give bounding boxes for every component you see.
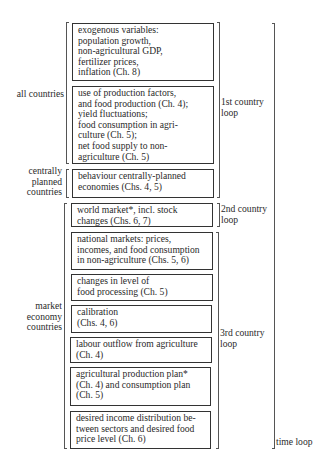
bracket-all-countries <box>66 22 69 164</box>
bracket-2nd-country-loop <box>217 203 220 227</box>
box-centrally-planned-behaviour: behaviour centrally-planned economies (C… <box>72 169 214 198</box>
bracket-time-loop <box>272 23 275 449</box>
group-label-centrally-planned: centrally planned countries <box>4 166 62 198</box>
box-production-factors: use of production factors, and food prod… <box>72 86 214 164</box>
group-label-market-economy: market economy countries <box>4 301 62 333</box>
box-labour-outflow: labour outflow from agriculture (Ch. 4) <box>70 337 212 363</box>
box-exogenous-variables: exogenous variables: population growth, … <box>72 23 214 81</box>
box-income-distribution: desired income distribution be- tween se… <box>70 411 211 449</box>
loop-label-3rd: 3rd country loop <box>220 328 265 349</box>
box-calibration: calibration (Chs. 4, 6) <box>71 305 212 333</box>
box-food-processing: changes in level of food processing (Ch.… <box>71 274 213 301</box>
loop-label-2nd: 2nd country loop <box>221 204 267 225</box>
box-world-market: world market*, incl. stock changes (Chs.… <box>71 203 213 227</box>
group-label-all-countries: all countries <box>14 89 64 100</box>
bracket-market-economy <box>64 203 67 449</box>
box-national-markets: national markets: prices, incomes, and f… <box>71 232 213 270</box>
box-production-plan: agricultural production plan* (Ch. 4) an… <box>70 367 211 406</box>
bracket-1st-country-loop <box>217 22 220 198</box>
loop-label-1st: 1st country loop <box>221 97 264 118</box>
loop-label-time: time loop <box>276 437 313 448</box>
bracket-3rd-country-loop <box>216 232 219 449</box>
bracket-centrally-planned <box>66 169 69 198</box>
